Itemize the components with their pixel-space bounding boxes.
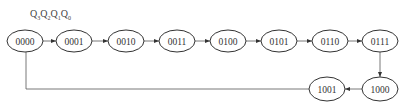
state-diagram: 0000 0001 0010 0011 0100 0101 0110 0111 … bbox=[0, 0, 407, 112]
state-0111: 0111 bbox=[362, 30, 398, 52]
state-label: 1001 bbox=[318, 85, 337, 95]
state-0011: 0011 bbox=[159, 30, 195, 52]
state-label: 0001 bbox=[65, 37, 84, 47]
state-0101: 0101 bbox=[261, 30, 297, 52]
state-label: 1000 bbox=[371, 85, 390, 95]
state-label: 0111 bbox=[371, 37, 390, 47]
state-label: 0000 bbox=[16, 37, 35, 47]
state-0010: 0010 bbox=[108, 30, 144, 52]
state-label: 0010 bbox=[117, 37, 136, 47]
state-0000: 0000 bbox=[7, 30, 43, 52]
state-0001: 0001 bbox=[56, 30, 92, 52]
state-0110: 0110 bbox=[312, 30, 348, 52]
state-label: 0100 bbox=[219, 37, 238, 47]
edge-1001-0000 bbox=[26, 52, 309, 89]
state-label: 0110 bbox=[321, 37, 340, 47]
state-label: 0011 bbox=[168, 37, 187, 47]
state-label: 0101 bbox=[270, 37, 289, 47]
state-0100: 0100 bbox=[210, 30, 246, 52]
state-1001: 1001 bbox=[309, 77, 345, 101]
state-1000: 1000 bbox=[362, 77, 398, 101]
